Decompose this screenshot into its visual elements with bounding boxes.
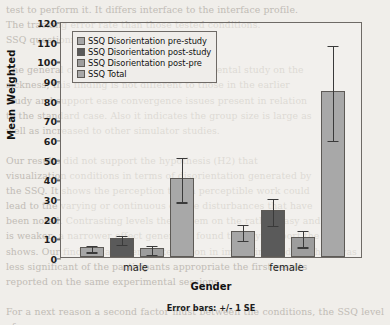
y-axis-tick-mark xyxy=(57,121,61,122)
error-bar-cap-upper xyxy=(327,46,338,47)
legend-swatch-icon xyxy=(77,48,85,56)
error-bar-cap-lower xyxy=(176,202,187,203)
legend-item-label: SSQ Disorientation pre-study xyxy=(88,36,207,46)
error-bar-line xyxy=(182,158,183,202)
y-axis-tick-mark xyxy=(57,160,61,161)
chart-legend: SSQ Disorientation pre-studySSQ Disorien… xyxy=(72,31,217,83)
error-bar-cap-lower xyxy=(116,245,127,246)
legend-item-label: SSQ Disorientation post-pre xyxy=(88,58,202,68)
error-bar-note: Error bars: +/- 1 SE xyxy=(167,303,256,313)
error-bar-cap-upper xyxy=(116,236,127,237)
y-axis-tick-mark xyxy=(57,62,61,63)
legend-item-label: SSQ Disorientation post-study xyxy=(88,47,211,57)
error-bar-cap-upper xyxy=(146,246,157,247)
error-bar-line xyxy=(303,231,304,248)
legend-item-0[interactable]: SSQ Disorientation pre-study xyxy=(77,35,211,46)
error-bar-cap-lower xyxy=(146,255,157,256)
y-axis-tick-mark xyxy=(57,199,61,200)
error-bar-line xyxy=(243,225,244,241)
legend-item-3[interactable]: SSQ Total xyxy=(77,68,211,79)
y-axis-title: Mean Weighted xyxy=(6,49,17,140)
legend-swatch-icon xyxy=(77,37,85,45)
error-bar-cap-lower xyxy=(86,252,97,253)
error-bar-cap-upper xyxy=(297,231,308,232)
error-bar-cap-upper xyxy=(267,199,278,200)
x-axis-tick-label-female: female xyxy=(269,262,303,273)
y-axis-tick-mark xyxy=(57,140,61,141)
legend-swatch-icon xyxy=(77,59,85,67)
y-axis-tick-mark xyxy=(57,180,61,181)
error-bar-cap-upper xyxy=(176,158,187,159)
legend-swatch-icon xyxy=(77,70,85,78)
error-bar-line xyxy=(152,246,153,255)
legend-item-2[interactable]: SSQ Disorientation post-pre xyxy=(77,57,211,68)
error-bar-cap-upper xyxy=(237,225,248,226)
x-axis-tick-label-male: male xyxy=(123,262,148,273)
y-axis-tick-mark xyxy=(57,258,61,259)
plot-area: SSQ Disorientation pre-studySSQ Disorien… xyxy=(60,22,362,258)
error-bar-line xyxy=(333,46,334,141)
error-bar-cap-lower xyxy=(267,226,278,227)
x-axis-title: Gender xyxy=(191,281,232,292)
y-axis-tick-mark xyxy=(57,22,61,23)
error-bar-cap-lower xyxy=(237,241,248,242)
chart-figure: Mean Weighted SSQ Disorientation pre-stu… xyxy=(0,0,390,325)
error-bar-cap-upper xyxy=(86,246,97,247)
error-bar-cap-lower xyxy=(297,247,308,248)
legend-item-1[interactable]: SSQ Disorientation post-study xyxy=(77,46,211,57)
y-axis-tick-mark xyxy=(57,81,61,82)
y-axis-tick-mark xyxy=(57,101,61,102)
y-axis-tick-mark xyxy=(57,42,61,43)
error-bar-cap-lower xyxy=(327,141,338,142)
error-bar-line xyxy=(273,199,274,226)
legend-item-label: SSQ Total xyxy=(88,69,127,79)
error-bar-line xyxy=(122,236,123,245)
y-axis-tick-mark xyxy=(57,239,61,240)
y-axis-tick-mark xyxy=(57,219,61,220)
